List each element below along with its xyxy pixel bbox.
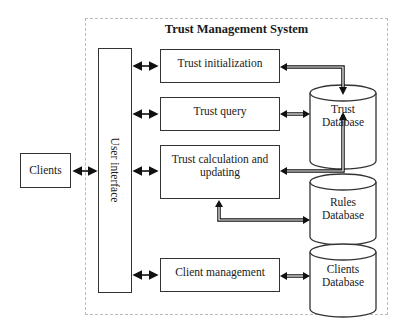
trust-db-line2: Database <box>310 116 376 129</box>
trust-database-label: Trust Database <box>310 103 376 129</box>
clients-db-line2: Database <box>310 276 376 289</box>
rules-database-label: Rules Database <box>310 196 376 222</box>
trust-db-line1: Trust <box>310 103 376 116</box>
rules-db-line2: Database <box>310 209 376 222</box>
clients-database-label: Clients Database <box>310 263 376 289</box>
rules-db-line1: Rules <box>310 196 376 209</box>
clients-db-line1: Clients <box>310 263 376 276</box>
